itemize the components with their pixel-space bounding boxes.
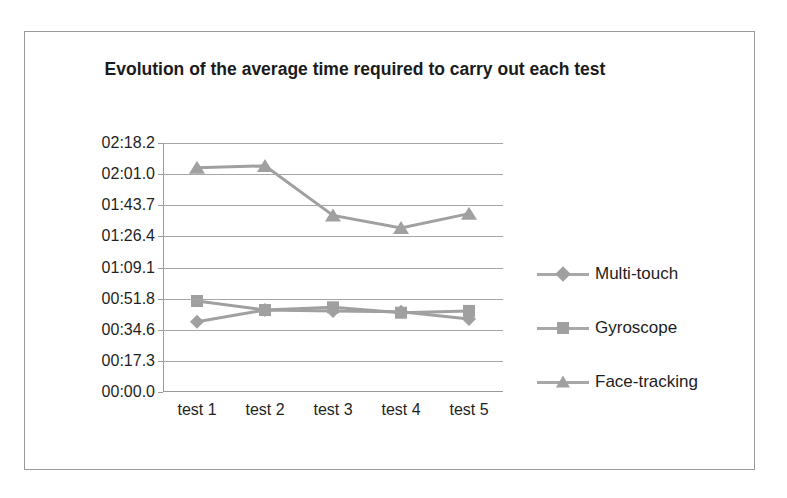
gridline bbox=[163, 330, 503, 331]
legend-label: Multi-touch bbox=[595, 264, 678, 284]
y-axis-tick bbox=[158, 205, 163, 206]
legend-item-face-tracking[interactable]: Face-tracking bbox=[537, 355, 737, 409]
gridline bbox=[163, 299, 503, 300]
gridline bbox=[163, 143, 503, 144]
data-point-square-icon bbox=[191, 295, 203, 307]
y-axis-tick bbox=[158, 143, 163, 144]
legend-label: Face-tracking bbox=[595, 372, 698, 392]
legend-item-multi-touch[interactable]: Multi-touch bbox=[537, 247, 737, 301]
x-axis-tick-label: test 1 bbox=[177, 401, 216, 419]
chart-container: Evolution of the average time required t… bbox=[24, 31, 755, 470]
y-axis-tick-labels: 02:18.202:01.001:43.701:26.401:09.100:51… bbox=[25, 143, 155, 392]
gridline bbox=[163, 268, 503, 269]
y-axis-tick bbox=[158, 174, 163, 175]
x-axis-tick-label: test 2 bbox=[245, 401, 284, 419]
gridline bbox=[163, 174, 503, 175]
x-axis-tick-label: test 3 bbox=[313, 401, 352, 419]
y-axis-tick-label: 02:18.2 bbox=[102, 134, 155, 152]
chart-legend: Multi-touch Gyroscope Face-tracking bbox=[537, 247, 737, 409]
plot-area bbox=[163, 143, 503, 392]
legend-item-gyroscope[interactable]: Gyroscope bbox=[537, 301, 737, 355]
y-axis-tick-label: 00:34.6 bbox=[102, 321, 155, 339]
y-axis-tick-label: 00:51.8 bbox=[102, 290, 155, 308]
y-axis-tick-label: 01:43.7 bbox=[102, 196, 155, 214]
y-axis-tick bbox=[158, 330, 163, 331]
gridline bbox=[163, 361, 503, 362]
y-axis-tick-label: 01:26.4 bbox=[102, 227, 155, 245]
gridline bbox=[163, 236, 503, 237]
gridline bbox=[163, 205, 503, 206]
legend-key-diamond-icon bbox=[537, 265, 589, 283]
top-cut-off-text bbox=[8, 0, 608, 5]
y-axis-tick bbox=[158, 392, 163, 393]
y-axis-tick-label: 00:17.3 bbox=[102, 352, 155, 370]
x-axis-category-labels: test 1test 2test 3test 4test 5 bbox=[163, 401, 503, 427]
data-point-triangle-icon bbox=[461, 207, 477, 220]
chart-title: Evolution of the average time required t… bbox=[85, 58, 625, 81]
legend-label: Gyroscope bbox=[595, 318, 677, 338]
y-axis-tick-label: 02:01.0 bbox=[102, 165, 155, 183]
y-axis-tick bbox=[158, 268, 163, 269]
y-axis-tick bbox=[158, 361, 163, 362]
data-point-square-icon bbox=[463, 305, 475, 317]
x-axis-tick-label: test 5 bbox=[449, 401, 488, 419]
y-axis-tick-label: 00:00.0 bbox=[102, 383, 155, 401]
legend-key-square-icon bbox=[537, 319, 589, 337]
x-axis-tick-label: test 4 bbox=[381, 401, 420, 419]
y-axis-tick bbox=[158, 299, 163, 300]
data-point-square-icon bbox=[259, 304, 271, 316]
y-axis-tick-label: 01:09.1 bbox=[102, 259, 155, 277]
y-axis-tick bbox=[158, 236, 163, 237]
data-point-diamond-icon bbox=[190, 315, 204, 329]
data-point-square-icon bbox=[327, 301, 339, 313]
legend-key-triangle-icon bbox=[537, 373, 589, 391]
data-point-square-icon bbox=[395, 307, 407, 319]
